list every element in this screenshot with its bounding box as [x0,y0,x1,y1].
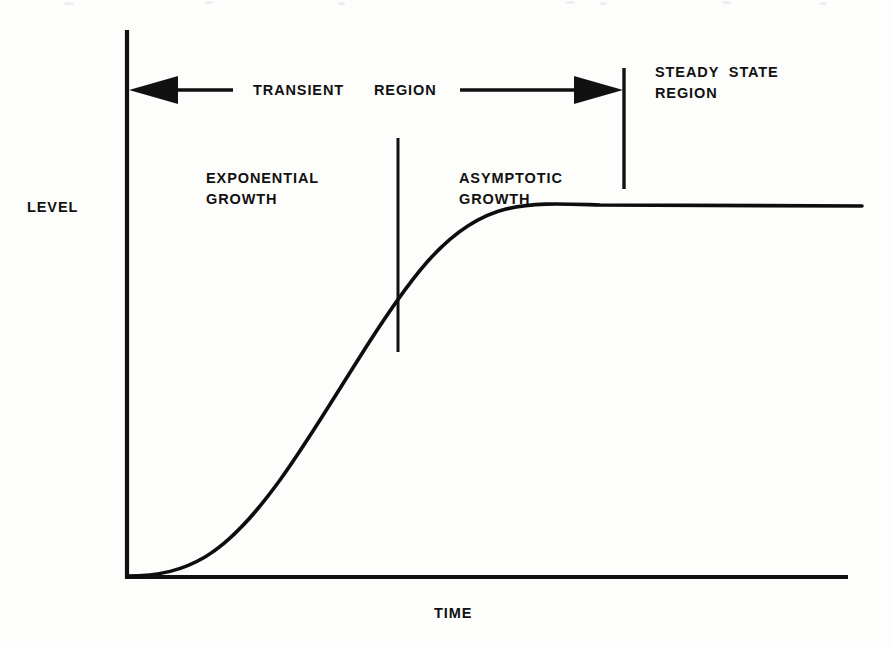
x-axis-label: TIME [434,603,472,623]
transient-left-arrow-icon [129,76,233,104]
scan-artifact [64,2,74,5]
transient-region-label: TRANSIENT [253,80,344,100]
y-axis-label: LEVEL [27,197,78,217]
transient-right-arrow-icon [460,76,623,104]
steady-state-region-label: STEADY STATE REGION [655,62,779,104]
transient-region-word-label: REGION [374,80,437,100]
scan-artifact [600,2,607,5]
growth-curve-figure: LEVEL TIME TRANSIENT REGION STEADY STATE… [0,0,892,647]
exponential-growth-label: EXPONENTIAL GROWTH [206,168,319,210]
asymptotic-growth-label: ASYMPTOTIC GROWTH [459,168,563,210]
scan-artifact [566,1,575,4]
scan-artifact [205,1,213,4]
scan-artifact [722,1,731,4]
scan-artifact [338,2,345,5]
scan-artifact [820,2,827,5]
growth-curve-path [127,204,862,576]
